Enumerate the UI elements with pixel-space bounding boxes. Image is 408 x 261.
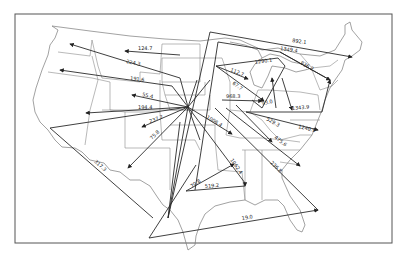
- flow-label: 1290.1: [254, 57, 272, 65]
- flow-label: 75.8: [148, 129, 160, 141]
- flow-label: 194.4: [138, 104, 152, 110]
- flow-label: 519.2: [205, 182, 220, 189]
- flow-label: 529.3: [266, 116, 281, 128]
- flow-label: 317.3: [93, 158, 108, 172]
- flow-label: 892.1: [292, 37, 307, 45]
- flow-label: 55.4: [142, 91, 154, 99]
- flow-line-317-3: [50, 107, 188, 218]
- flow-label: 124.7: [138, 45, 152, 51]
- flow-label: 1349.4: [280, 45, 298, 53]
- flow-label: 236.8: [269, 159, 283, 173]
- flow-line-224-3: [70, 44, 188, 107]
- flow-line-210: [188, 80, 210, 107]
- us-outline: [33, 22, 362, 250]
- gulf-coast: [188, 245, 195, 250]
- flow-label: 475.6: [273, 134, 288, 148]
- flow-line-191-6: [60, 70, 188, 107]
- flow-line-70-8: [149, 165, 196, 238]
- flow-line-200: [188, 80, 197, 107]
- flow-label: 1006.4: [205, 114, 223, 128]
- flow-line-529-3: [236, 105, 272, 142]
- flow-label: 112.7: [230, 66, 246, 77]
- map-border: [15, 14, 392, 243]
- flow-label: 67.7: [231, 80, 244, 91]
- flow-label: 93.0: [261, 98, 273, 106]
- flow-label: 237.7: [148, 113, 164, 124]
- flow-map: 124.7 224.3 191.6 55.4 194.4 237.7 75.8 …: [0, 0, 408, 261]
- flow-label: 1343.9: [292, 103, 310, 111]
- flow-label: 19.0: [241, 213, 253, 221]
- flow-label: 224.3: [126, 58, 141, 67]
- flow-line-down: [282, 78, 292, 110]
- flow-label: 1240.9: [298, 123, 316, 133]
- west-coast: [33, 26, 188, 250]
- flow-line-124-7: [125, 51, 180, 55]
- flow-label: 968.3: [226, 93, 240, 99]
- flow-label: 836.2: [300, 60, 315, 72]
- flow-line-968-3: [222, 100, 262, 101]
